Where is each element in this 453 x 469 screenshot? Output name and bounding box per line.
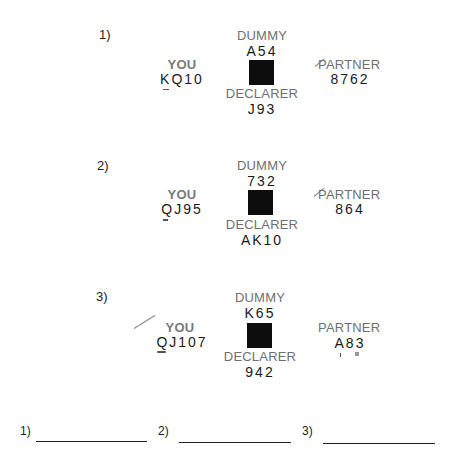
dummy-label: DUMMY [226, 290, 294, 305]
pencil-mark [163, 219, 168, 221]
declarer-label: DECLARER [225, 217, 299, 232]
declarer-label: DECLARER [223, 349, 297, 364]
check-mark-icon [134, 315, 156, 329]
pencil-mark [340, 353, 341, 357]
answer-number: 3) [302, 424, 313, 438]
problem-number: 3) [96, 289, 108, 304]
you-cards: QJ95 [155, 201, 209, 217]
answer-blank-3[interactable] [323, 442, 435, 444]
you-cards: QJ107 [152, 334, 212, 350]
partner-label: PARTNER [318, 320, 380, 335]
pencil-mark [157, 351, 166, 353]
problem-3: 3) DUMMY K65 YOU QJ107 PARTNER A83 DECLA… [0, 0, 453, 120]
partner-label: PARTNER [318, 187, 380, 202]
you-label: YOU [158, 320, 202, 335]
answer-number: 2) [158, 424, 169, 438]
you-label: YOU [160, 187, 204, 202]
partner-cards: A83 [325, 335, 375, 351]
partner-cards: 864 [325, 201, 375, 217]
answer-blank-2[interactable] [179, 441, 291, 443]
answer-blank-1[interactable] [36, 440, 147, 442]
table-square [247, 323, 272, 348]
answer-number: 1) [20, 424, 31, 438]
declarer-cards: 942 [226, 364, 294, 380]
table-square [248, 190, 273, 215]
problem-number: 2) [97, 158, 109, 173]
dummy-label: DUMMY [228, 158, 296, 173]
dummy-cards: K65 [226, 305, 294, 321]
dummy-cards: 732 [228, 173, 296, 189]
pencil-mark [355, 352, 359, 356]
declarer-cards: AK10 [228, 232, 296, 248]
